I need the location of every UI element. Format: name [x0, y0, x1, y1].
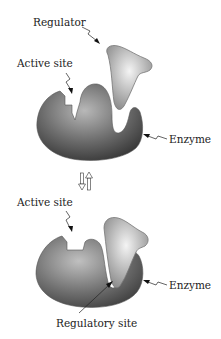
arrowhead-icon	[143, 134, 150, 138]
arrowhead-icon	[143, 280, 150, 284]
arrowhead-icon	[68, 226, 73, 232]
label-enzyme-top: Enzyme	[169, 134, 211, 145]
label-active-site-bottom: Active site	[17, 197, 73, 208]
label-regulator: Regulator	[33, 17, 86, 28]
diagram-stage: Regulator Active site Enzyme Active site…	[0, 0, 221, 339]
enzyme-leader-bottom	[148, 282, 167, 285]
label-regulatory-site: Regulatory site	[56, 318, 137, 329]
double-arrow-icon	[79, 172, 93, 190]
active-site-leader-top	[66, 73, 71, 90]
regulator-shape-top	[107, 45, 152, 109]
enzyme-leader-top	[148, 136, 167, 139]
label-enzyme-bottom: Enzyme	[169, 280, 211, 291]
arrowhead-icon	[68, 88, 73, 94]
arrowhead-icon	[94, 38, 100, 44]
active-site-leader-bottom	[66, 211, 70, 228]
regulator-leader-top	[82, 27, 97, 41]
label-active-site-top: Active site	[17, 58, 73, 69]
